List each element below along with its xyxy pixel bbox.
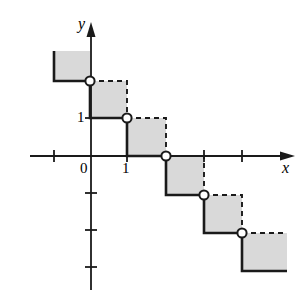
step-function-plot	[0, 0, 304, 306]
shaded-region-6	[242, 233, 287, 271]
open-circle-4-neg2	[237, 228, 246, 237]
shaded-region-2	[90, 81, 127, 118]
open-circle-3-neg1	[199, 190, 208, 199]
y-axis-label: y	[78, 16, 85, 32]
open-circle-1-1	[122, 113, 131, 122]
shaded-region-5	[204, 195, 242, 233]
x-axis-label: x	[282, 160, 289, 176]
shaded-region-4	[166, 156, 204, 195]
open-circle-2-0	[161, 151, 170, 160]
x-tick-label-one: 1	[122, 161, 130, 176]
origin-label: 0	[80, 161, 88, 176]
shaded-region-3	[127, 118, 166, 156]
y-axis-arrow	[87, 22, 96, 37]
open-circle-0-2	[85, 76, 94, 85]
shaded-region-1	[54, 51, 90, 81]
y-tick-label-one: 1	[77, 110, 85, 125]
step-function-figure: y x 0 1 1	[0, 0, 304, 306]
